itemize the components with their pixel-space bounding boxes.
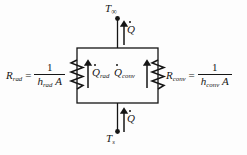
q-rad-subscript: rad xyxy=(100,72,109,79)
r-rad-subscript: rad xyxy=(13,75,22,82)
r-conv-symbol: R xyxy=(166,69,173,81)
r-rad-symbol: R xyxy=(6,69,13,81)
t-infinity-subscript: ∞ xyxy=(111,7,116,16)
q-rad-label: Qrad xyxy=(92,67,109,78)
q-top-label: Q xyxy=(127,24,135,35)
q-bottom-label: Q xyxy=(127,113,135,124)
t-surface-node-dot xyxy=(115,129,120,134)
r-conv-h-subscript: conv xyxy=(206,81,219,88)
r-conv-name-group: Rconv xyxy=(166,69,186,81)
r-conv-numerator: 1 xyxy=(208,62,222,74)
r-conv-area-symbol: A xyxy=(222,75,229,87)
t-infinity-node-dot xyxy=(115,16,120,21)
q-conv-subscript: conv xyxy=(122,72,135,79)
thermal-resistance-diagram: T∞ Ts Q Q Qrad Qconv Rrad = 1 hrad A Rco… xyxy=(0,0,247,155)
r-rad-h-subscript: rad xyxy=(43,81,52,88)
r-rad-denominator: hrad A xyxy=(34,75,64,87)
r-rad-name-group: Rrad xyxy=(6,69,22,81)
r-conv-subscript: conv xyxy=(173,75,186,82)
convection-resistance-equation: Rconv = 1 hconv A xyxy=(166,62,232,87)
q-top-symbol: Q xyxy=(127,24,135,35)
r-conv-denominator: hconv A xyxy=(198,75,232,87)
q-conv-label: Qconv xyxy=(114,67,135,78)
t-surface-label: Ts xyxy=(106,133,115,144)
t-infinity-label: T∞ xyxy=(105,3,117,14)
q-bottom-symbol: Q xyxy=(127,113,135,124)
q-conv-symbol: Q xyxy=(114,67,122,78)
r-conv-equals-sign: = xyxy=(186,69,198,81)
r-rad-fraction: 1 hrad A xyxy=(34,62,64,87)
q-rad-symbol: Q xyxy=(92,67,100,78)
r-rad-numerator: 1 xyxy=(43,62,57,74)
r-rad-equals-sign: = xyxy=(22,69,34,81)
t-surface-subscript: s xyxy=(112,138,115,145)
radiation-resistance-equation: Rrad = 1 hrad A xyxy=(6,62,65,87)
r-rad-area-symbol: A xyxy=(55,75,62,87)
r-conv-fraction: 1 hconv A xyxy=(198,62,232,87)
